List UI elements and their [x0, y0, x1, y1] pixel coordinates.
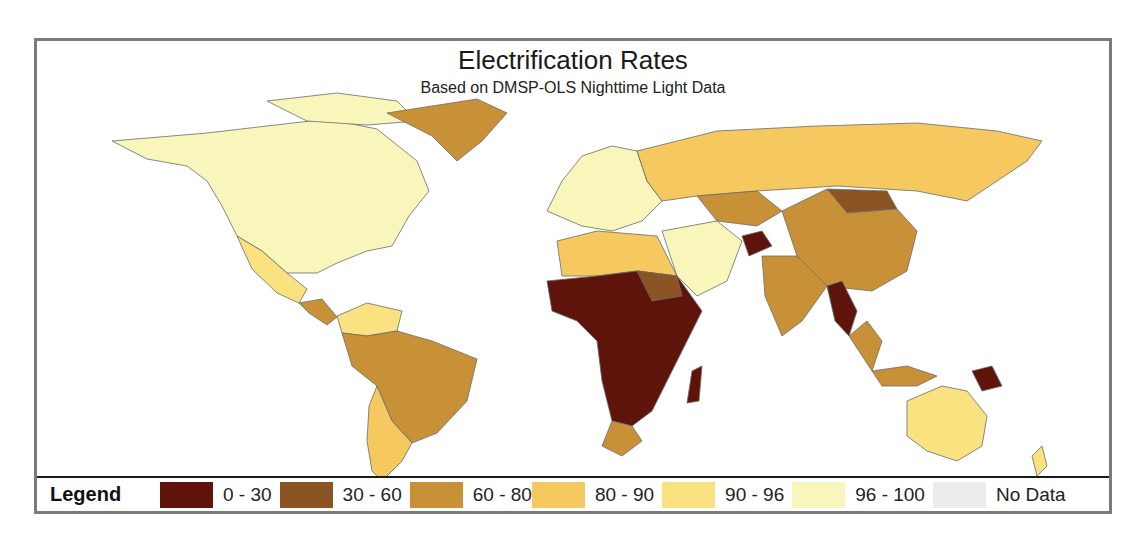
region-central-america: [299, 299, 337, 325]
legend-label: 0 - 30: [213, 484, 280, 506]
legend: Legend 0 - 30 30 - 60 60 - 80 80 - 90 90…: [37, 476, 1109, 511]
legend-swatch: [792, 482, 845, 508]
region-north-africa: [557, 231, 677, 276]
legend-swatch: [160, 482, 213, 508]
chart-subtitle: Based on DMSP-OLS Nighttime Light Data: [37, 78, 1109, 98]
legend-swatch: [532, 482, 585, 508]
world-map: [37, 41, 1109, 476]
region-madagascar: [687, 366, 702, 403]
legend-label: No Data: [986, 484, 1074, 506]
legend-title: Legend: [50, 483, 160, 506]
legend-label: 90 - 96: [715, 484, 792, 506]
legend-label: 60 - 80: [463, 484, 532, 506]
chart-title: Electrification Rates: [37, 45, 1109, 75]
legend-swatch: [280, 482, 333, 508]
region-afghanistan: [742, 231, 772, 256]
legend-item-0-30: 0 - 30: [160, 482, 280, 508]
legend-item-60-80: 60 - 80: [410, 482, 532, 508]
region-north-america: [112, 119, 429, 273]
region-myanmar: [827, 281, 857, 336]
legend-label: 30 - 60: [333, 484, 410, 506]
map-frame: Electrification Rates Based on DMSP-OLS …: [34, 38, 1112, 514]
region-southeast-asia: [849, 321, 882, 371]
region-papua-new-guinea: [972, 366, 1002, 391]
legend-item-80-90: 80 - 90: [532, 482, 662, 508]
legend-label: 80 - 90: [585, 484, 662, 506]
region-australia: [907, 386, 987, 461]
legend-item-30-60: 30 - 60: [280, 482, 410, 508]
legend-swatch: [933, 482, 986, 508]
legend-swatch: [410, 482, 463, 508]
legend-item-96-100: 96 - 100: [792, 482, 933, 508]
region-indonesia: [872, 366, 937, 386]
legend-item-no-data: No Data: [933, 482, 1074, 508]
region-brazil: [342, 331, 477, 443]
legend-item-90-96: 90 - 96: [662, 482, 792, 508]
region-south-africa: [602, 421, 642, 456]
region-new-zealand: [1032, 446, 1047, 476]
legend-label: 96 - 100: [845, 484, 933, 506]
region-south-america-north: [337, 303, 402, 336]
legend-swatch: [662, 482, 715, 508]
region-kazakhstan: [697, 191, 782, 226]
